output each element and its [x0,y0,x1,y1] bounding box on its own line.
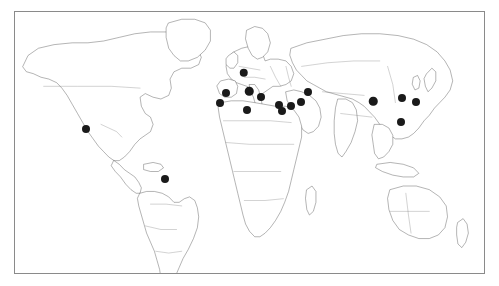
marker-layer [15,12,484,273]
site-marker-china-central-site [369,97,378,106]
site-marker-south-china-site [397,118,405,126]
site-marker-korea-site [398,94,406,102]
site-marker-algeria-tunisia-site [243,106,251,114]
site-marker-japan-site [412,98,420,106]
world-map-figure [0,0,499,286]
site-marker-egypt-site [278,107,286,115]
site-marker-iran-site [297,98,305,106]
site-marker-denmark-site [240,68,249,77]
site-marker-iraq-site [287,102,295,110]
site-marker-mexico-site [82,125,90,133]
site-marker-greece-site [257,93,265,101]
site-marker-morocco-site [216,99,224,107]
map-frame [14,11,485,274]
site-marker-brazil-site [161,175,169,183]
site-marker-spain-site [222,89,230,97]
site-marker-italy-site [245,87,254,96]
site-marker-caspian-caucasus-site [304,88,312,96]
